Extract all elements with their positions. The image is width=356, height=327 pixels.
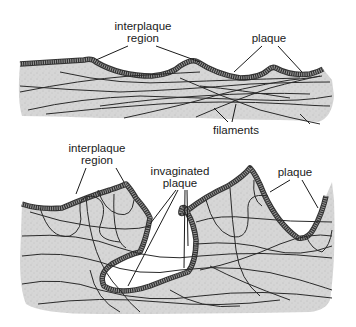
bottom-label-invaginated-line1: invaginated [144, 165, 216, 177]
bottom-label-plaque: plaque [272, 166, 318, 178]
bottom-label-interplaque-region: interplaque region [62, 142, 132, 166]
bottom-label-interplaque-line2: region [62, 154, 132, 166]
bottom-label-interplaque-line1: interplaque [62, 142, 132, 154]
diagram-svg [0, 0, 356, 327]
top-label-interplaque-line2: region [108, 32, 178, 44]
bottom-label-invaginated-line2: plaque [144, 177, 216, 189]
top-panel [19, 46, 334, 124]
figure: interplaque region plaque filaments inte… [0, 0, 356, 327]
bottom-panel [20, 168, 335, 314]
top-label-plaque: plaque [246, 32, 292, 44]
bottom-label-invaginated-plaque: invaginated plaque [144, 165, 216, 189]
top-label-filaments: filaments [206, 124, 266, 136]
top-label-interplaque-region: interplaque region [108, 20, 178, 44]
top-label-interplaque-line1: interplaque [108, 20, 178, 32]
